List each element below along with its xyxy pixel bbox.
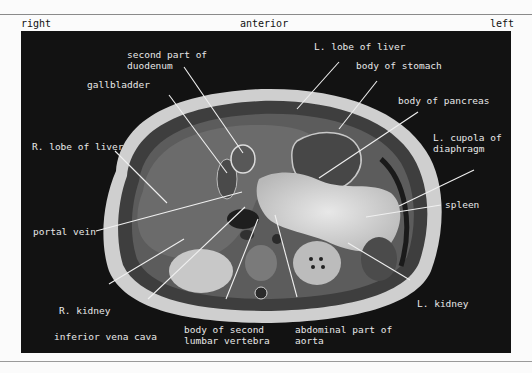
- label-second-part-of-duodenum: second part of duodenum: [127, 49, 207, 71]
- label-inferior-vena-cava: inferior vena cava: [54, 331, 157, 342]
- label-body-of-pancreas: body of pancreas: [398, 95, 490, 106]
- vertebral-body: [245, 245, 277, 281]
- label-r-kidney: R. kidney: [59, 305, 110, 316]
- label-r-lobe-of-liver: R. lobe of liver: [32, 141, 124, 152]
- spleen: [361, 237, 397, 281]
- label-l-cupola-of-diaphragm: L. cupola of diaphragm: [433, 132, 502, 154]
- label-gallbladder: gallbladder: [87, 79, 150, 90]
- label-abdominal-part-of-aorta: abdominal part of aorta: [295, 324, 392, 346]
- orientation-anterior-label: anterior: [240, 18, 288, 30]
- label-body-of-stomach: body of stomach: [356, 60, 442, 71]
- orientation-right-label: right: [21, 18, 51, 30]
- left-kidney: [293, 241, 341, 285]
- label-portal-vein: portal vein: [33, 226, 96, 237]
- label-l-lobe-of-liver: L. lobe of liver: [314, 41, 406, 52]
- anatomical-cross-section-figure: second part of duodenum gallbladder L. l…: [21, 31, 511, 353]
- right-kidney: [169, 249, 233, 293]
- label-l-kidney: L. kidney: [417, 298, 468, 309]
- label-spleen: spleen: [445, 199, 479, 210]
- spinal-canal: [255, 287, 267, 299]
- label-body-of-second-lumbar-vertebra: body of second lumbar vertebra: [184, 324, 270, 346]
- orientation-left-label: left: [490, 18, 514, 30]
- bottom-rule: [0, 361, 532, 362]
- duodenum: [231, 145, 255, 173]
- top-rule: [0, 14, 532, 15]
